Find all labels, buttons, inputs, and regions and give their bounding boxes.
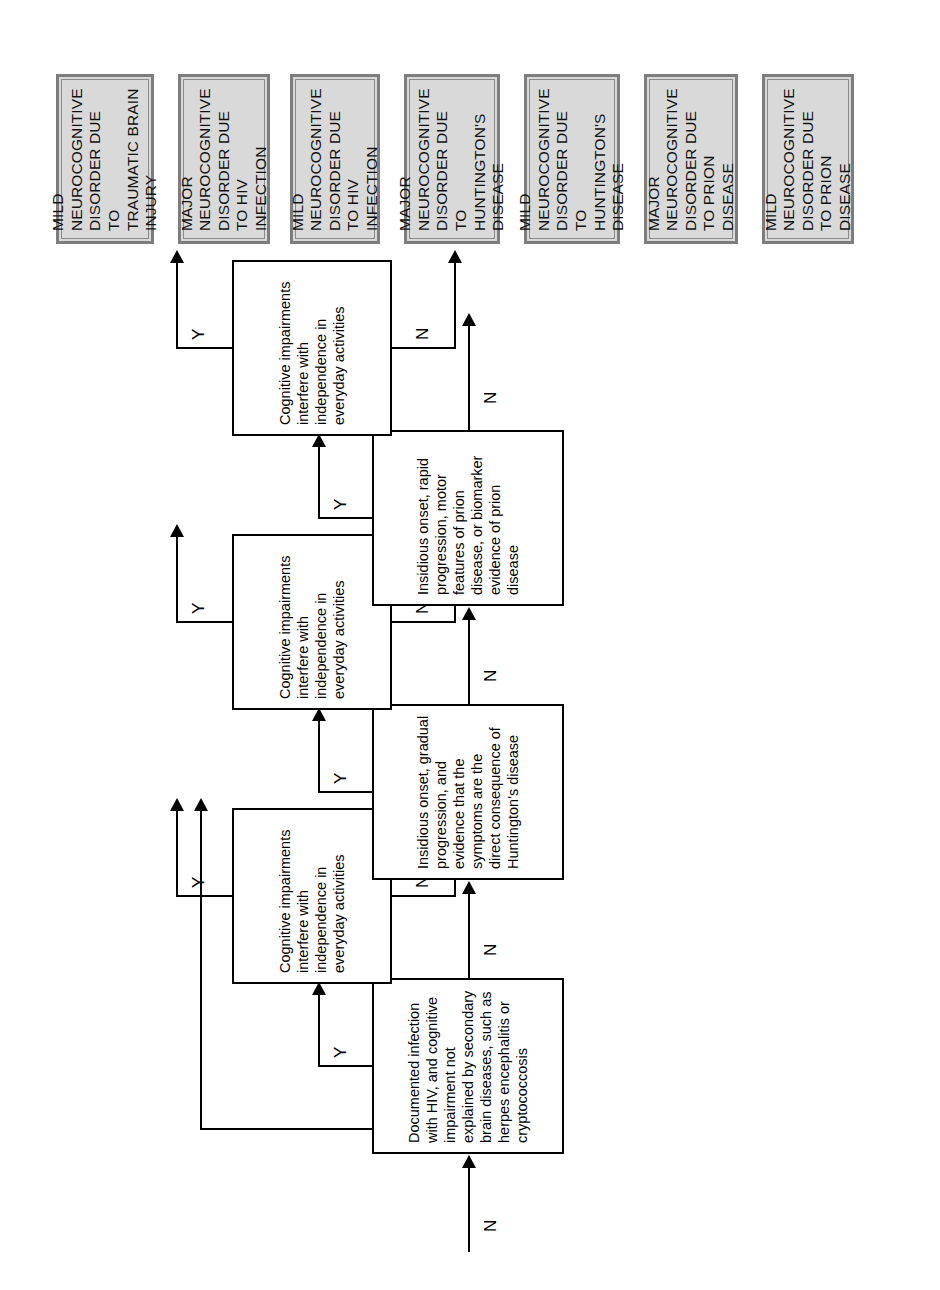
entry-branch-label: N — [482, 1220, 499, 1232]
huntington-yes-label: Y — [332, 773, 349, 784]
gate-prion-yes-line-h — [176, 261, 178, 349]
criterion-hiv-text: Documented infection with HIV, and cogni… — [405, 989, 532, 1143]
outcome-box-mild-tbi[interactable]: MILD NEUROCOGNITIVE DISORDER DUE TO TRAU… — [56, 74, 154, 244]
criterion-prion-text: Insidious onset, rapid progression, moto… — [414, 441, 523, 595]
gate-prion-yes-arrowhead-icon — [170, 250, 184, 263]
criterion-box-prion[interactable]: Insidious onset, rapid progression, moto… — [372, 430, 564, 606]
outcome-box-major-huntington[interactable]: MAJOR NEUROCOGNITIVE DISORDER DUE TO HUN… — [404, 74, 500, 244]
gate-huntington-yes-line-v — [176, 621, 234, 623]
gate-hiv-yes-label: Y — [190, 877, 207, 888]
outcome-mild-prion-text: MILD NEUROCOGNITIVE DISORDER DUE TO PRIO… — [762, 87, 855, 231]
gate-hiv-yes-line-v — [176, 895, 234, 897]
gate-prion-yes-line-v — [176, 347, 234, 349]
entry-arrowhead-icon — [462, 1155, 476, 1168]
severity-gate-box-hiv[interactable]: Cognitive impairments interfere with ind… — [232, 808, 392, 984]
severity-gate-prion-text: Cognitive impairments interfere with ind… — [276, 271, 349, 425]
gate-huntington-yes-label: Y — [190, 603, 207, 614]
huntington-yes-line-h — [318, 719, 320, 793]
criterion-box-huntington[interactable]: Insidious onset, gradual progression, an… — [372, 704, 564, 880]
huntington-no-line — [468, 618, 470, 704]
huntington-yes-line-v — [318, 791, 374, 793]
outcome-mild-tbi-text: MILD NEUROCOGNITIVE DISORDER DUE TO TRAU… — [49, 87, 161, 231]
flowchart-stage: N Documented infection with HIV, and cog… — [0, 0, 940, 1290]
outcome-mild-hiv-text: MILD NEUROCOGNITIVE DISORDER DUE TO HIV … — [289, 87, 382, 231]
hiv-yes-line-h — [318, 993, 320, 1067]
outcome-major-prion-text: MAJOR NEUROCOGNITIVE DISORDER DUE TO PRI… — [645, 87, 738, 231]
huntington-no-arrowhead-icon — [462, 607, 476, 620]
gate-prion-no-label: N — [414, 328, 431, 340]
gate-huntington-no-line-v — [390, 621, 456, 623]
outcome-box-major-prion[interactable]: MAJOR NEUROCOGNITIVE DISORDER DUE TO PRI… — [644, 74, 738, 244]
huntington-no-label: N — [482, 670, 499, 682]
gate-prion-no-line-v — [390, 347, 456, 349]
hiv-yes-label: Y — [332, 1047, 349, 1058]
outcome-major-huntington-text: MAJOR NEUROCOGNITIVE DISORDER DUE TO HUN… — [396, 87, 508, 231]
outcome-major-hiv-text: MAJOR NEUROCOGNITIVE DISORDER DUE TO HIV… — [178, 87, 271, 231]
tbi-route-line-h — [200, 808, 202, 1130]
severity-gate-box-huntington[interactable]: Cognitive impairments interfere with ind… — [232, 534, 392, 710]
prion-yes-line-h — [318, 445, 320, 519]
hiv-no-label: N — [482, 944, 499, 956]
severity-gate-hiv-text: Cognitive impairments interfere with ind… — [276, 819, 349, 973]
gate-huntington-yes-arrowhead-icon — [170, 524, 184, 537]
criterion-huntington-text: Insidious onset, gradual progression, an… — [414, 715, 523, 869]
exit-branch-label: N — [482, 392, 499, 404]
outcome-box-mild-huntington[interactable]: MILD NEUROCOGNITIVE DISORDER DUE TO HUNT… — [524, 74, 620, 244]
outcome-mild-huntington-text: MILD NEUROCOGNITIVE DISORDER DUE TO HUNT… — [516, 87, 628, 231]
severity-gate-huntington-text: Cognitive impairments interfere with ind… — [276, 545, 349, 699]
hiv-no-line — [468, 892, 470, 978]
tbi-route-line-v — [200, 1128, 374, 1130]
hiv-no-arrowhead-icon — [462, 881, 476, 894]
hiv-yes-line-v — [318, 1065, 374, 1067]
severity-gate-box-prion[interactable]: Cognitive impairments interfere with ind… — [232, 260, 392, 436]
gate-prion-no-arrowhead-icon — [448, 250, 462, 263]
exit-line — [468, 324, 470, 430]
prion-yes-line-v — [318, 517, 374, 519]
prion-yes-label: Y — [332, 499, 349, 510]
gate-prion-yes-label: Y — [190, 329, 207, 340]
outcome-box-mild-prion[interactable]: MILD NEUROCOGNITIVE DISORDER DUE TO PRIO… — [762, 74, 854, 244]
gate-hiv-yes-line-h — [176, 809, 178, 897]
outcome-box-major-hiv[interactable]: MAJOR NEUROCOGNITIVE DISORDER DUE TO HIV… — [178, 74, 270, 244]
gate-huntington-yes-line-h — [176, 535, 178, 623]
exit-arrowhead-icon — [462, 313, 476, 326]
gate-hiv-no-line-v — [390, 895, 456, 897]
criterion-box-hiv[interactable]: Documented infection with HIV, and cogni… — [372, 978, 564, 1154]
tbi-route-arrowhead-icon — [194, 798, 208, 811]
entry-line — [468, 1166, 470, 1252]
outcome-box-mild-hiv[interactable]: MILD NEUROCOGNITIVE DISORDER DUE TO HIV … — [290, 74, 380, 244]
gate-prion-no-line-h — [454, 261, 456, 349]
gate-hiv-yes-arrowhead-icon — [170, 798, 184, 811]
figure-canvas: N Documented infection with HIV, and cog… — [0, 0, 940, 1290]
